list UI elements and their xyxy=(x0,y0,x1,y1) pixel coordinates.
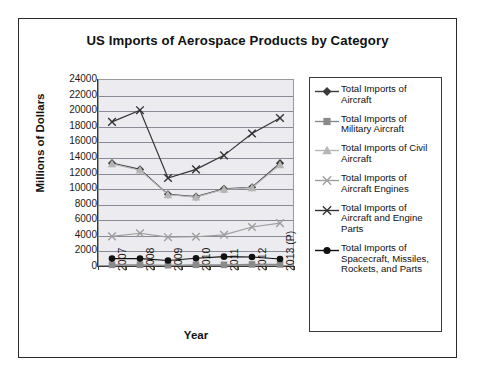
legend-item-1[interactable]: Total Imports of Military Aircraft xyxy=(314,114,437,135)
legend-item-3[interactable]: Total Imports of Aircraft Engines xyxy=(314,173,437,194)
series-2 xyxy=(108,160,285,201)
y-axis-tick-label: 24000 xyxy=(51,73,97,84)
y-axis-tick-label: 16000 xyxy=(51,135,97,146)
series-4 xyxy=(108,106,284,181)
data-point-circle xyxy=(323,247,330,254)
y-axis-tick-label: 22000 xyxy=(51,89,97,100)
legend-marker-cross-icon xyxy=(314,204,340,217)
data-point-diamond xyxy=(323,87,332,96)
data-point-circle xyxy=(109,255,116,262)
legend-label: Total Imports of Aircraft Engines xyxy=(340,173,437,194)
data-point-square xyxy=(193,262,200,269)
data-point-square xyxy=(323,118,330,125)
y-axis-tick-label: 20000 xyxy=(51,104,97,115)
data-point-circle xyxy=(165,257,172,264)
legend-item-2[interactable]: Total Imports of Civil Aircraft xyxy=(314,143,437,164)
legend-marker-diamond-icon xyxy=(314,85,340,98)
data-point-cross xyxy=(136,106,144,114)
y-axis-tick-label: 8000 xyxy=(51,198,97,209)
series-plot xyxy=(98,79,294,267)
x-axis-title: Year xyxy=(98,329,294,341)
data-point-square xyxy=(249,261,256,268)
y-axis-tick-label: 4000 xyxy=(51,229,97,240)
y-axis-tick-labels: 2400022000200001800016000140001200010000… xyxy=(39,79,97,267)
y-axis-tick-label: 14000 xyxy=(51,151,97,162)
data-point-cross xyxy=(276,114,284,122)
legend-item-4[interactable]: Total Imports of Aircraft and Engine Par… xyxy=(314,203,437,235)
legend-item-0[interactable]: Total Imports of Aircraft xyxy=(314,84,437,105)
data-point-triangle xyxy=(276,160,285,168)
data-point-cross xyxy=(164,174,172,182)
legend-label: Total Imports of Military Aircraft xyxy=(340,114,437,135)
y-axis-tick-label: 12000 xyxy=(51,167,97,178)
data-point-cross xyxy=(192,166,200,174)
data-point-cross xyxy=(220,152,228,160)
legend-label: Total Imports of Aircraft and Engine Par… xyxy=(340,203,437,235)
data-point-cross xyxy=(248,130,256,138)
chart-frame: US Imports of Aerospace Products by Cate… xyxy=(18,18,457,358)
data-point-square xyxy=(221,262,228,269)
y-axis-tick-label: 0 xyxy=(51,260,97,271)
y-axis-tick-label: 6000 xyxy=(51,213,97,224)
data-point-cross xyxy=(108,118,116,126)
chart-legend: Total Imports of AircraftTotal Imports o… xyxy=(309,77,442,332)
series-3 xyxy=(108,219,284,241)
chart-title: US Imports of Aerospace Products by Cate… xyxy=(19,33,456,48)
y-axis-tick-label: 10000 xyxy=(51,182,97,193)
data-point-square xyxy=(137,262,144,269)
x-axis-tick xyxy=(294,266,295,270)
legend-label: Total Imports of Aircraft xyxy=(340,84,437,105)
legend-label: Total Imports of Civil Aircraft xyxy=(340,143,437,164)
y-axis-tick-label: 18000 xyxy=(51,120,97,131)
y-axis-tick-label: 2000 xyxy=(51,244,97,255)
legend-marker-triangle-icon xyxy=(314,144,340,157)
legend-marker-square-icon xyxy=(314,115,340,128)
legend-marker-cross-icon xyxy=(314,174,340,187)
data-point-circle xyxy=(193,255,200,262)
data-point-circle xyxy=(137,255,144,262)
data-point-circle xyxy=(277,256,284,263)
legend-label: Total Imports of Spacecraft, Missiles, R… xyxy=(340,243,437,275)
legend-item-5[interactable]: Total Imports of Spacecraft, Missiles, R… xyxy=(314,243,437,275)
data-point-square xyxy=(109,262,116,269)
legend-marker-circle-icon xyxy=(314,244,340,257)
data-point-circle xyxy=(221,253,228,260)
data-point-circle xyxy=(249,254,256,261)
